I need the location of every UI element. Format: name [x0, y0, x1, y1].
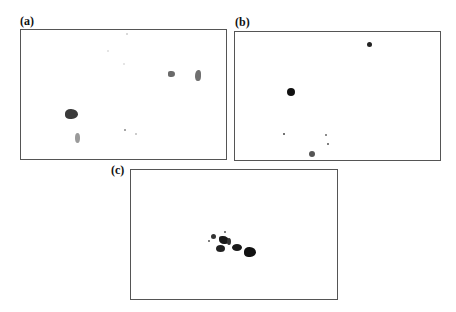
- panel-c-label: (c): [111, 164, 124, 176]
- cluster-part: [232, 244, 242, 251]
- panel-a-label: (a): [20, 15, 34, 27]
- speck: [208, 240, 210, 242]
- particle-hook: [195, 70, 201, 81]
- panel-c-image: [130, 169, 338, 300]
- cluster-part: [244, 247, 256, 257]
- speck: [283, 133, 285, 135]
- particle-small-grey: [75, 133, 80, 143]
- speck: [107, 50, 109, 52]
- cluster-part: [211, 234, 216, 239]
- speck: [325, 134, 327, 136]
- cluster-part: [216, 245, 225, 252]
- particle-dot-center: [287, 88, 295, 96]
- speck: [135, 133, 137, 135]
- speck: [123, 63, 125, 65]
- panel-b-image: [234, 31, 441, 161]
- speck: [327, 143, 329, 145]
- particle-large-dark: [65, 109, 78, 119]
- cluster-part: [227, 238, 231, 245]
- panel-a-image: [20, 29, 227, 160]
- panel-b-label: (b): [235, 16, 250, 28]
- particle-triangle: [168, 71, 175, 77]
- particle-dot-bottom: [309, 151, 315, 157]
- speck: [124, 129, 126, 131]
- speck: [224, 231, 226, 233]
- speck: [126, 33, 128, 35]
- particle-dot-top: [367, 42, 372, 47]
